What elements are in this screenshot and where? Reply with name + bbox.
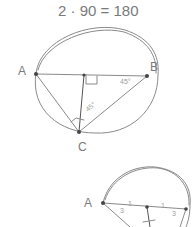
center-point-2 <box>145 205 149 209</box>
diagram-2: 1 1 3 3 A <box>84 167 190 227</box>
label-A: A <box>18 64 26 78</box>
diagram-1: 45° 45° A B C <box>18 27 158 154</box>
chord-2-right <box>180 209 186 227</box>
center-point <box>82 73 85 76</box>
angle-label-B: 45° <box>120 78 131 85</box>
equation-text: 2 · 90 = 180 <box>58 2 138 19</box>
point-A <box>34 72 38 76</box>
radius-to-C <box>79 75 84 132</box>
diameter-2 <box>103 203 186 209</box>
circle-1-overdraw <box>38 30 156 73</box>
angle-label-right: 3 <box>172 210 176 217</box>
angle-label-C: 45° <box>84 100 97 112</box>
point-B <box>145 74 149 78</box>
angle-mark-C <box>71 118 84 122</box>
radius-2 <box>147 207 150 227</box>
tick-label-left: 1 <box>128 200 132 207</box>
label-B: B <box>150 60 158 74</box>
point-B2 <box>184 207 188 211</box>
circle-2-overdraw <box>105 168 189 205</box>
right-angle-mark <box>86 75 97 84</box>
tick-label-right: 1 <box>161 202 165 209</box>
angle-label-left: 3 <box>120 207 124 214</box>
chord-2-left <box>103 203 130 227</box>
label-C: C <box>78 140 87 154</box>
point-A2 <box>101 201 105 205</box>
point-C <box>77 130 81 134</box>
label-A2: A <box>84 196 92 210</box>
diameter-AB <box>36 74 147 76</box>
hand-drawn-geometry-sketch: 2 · 90 = 180 45° 45° A B C 1 <box>0 0 195 227</box>
